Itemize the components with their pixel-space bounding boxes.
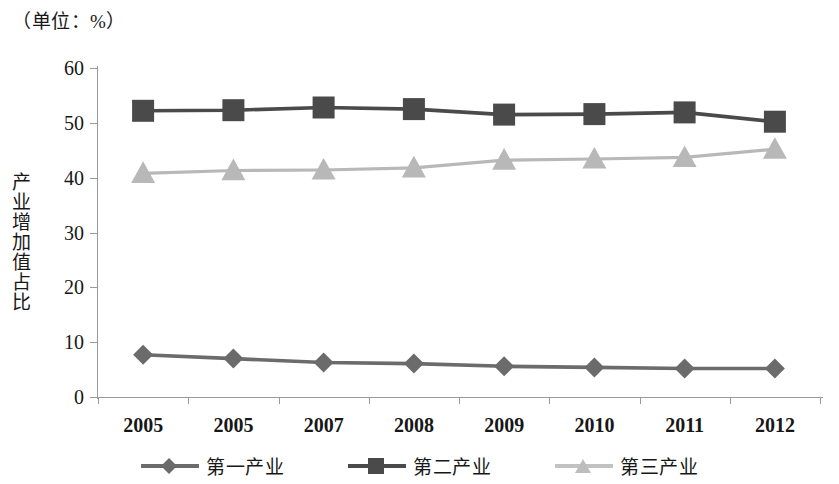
data-point-marker [222, 99, 244, 121]
data-point-marker [764, 111, 786, 133]
data-point-marker [313, 97, 335, 119]
chart-legend: 第一产业 第二产业 第三产业 [0, 452, 839, 479]
legend-triangle-icon [555, 457, 613, 475]
data-point-marker [132, 100, 154, 122]
series-2 [132, 97, 786, 133]
data-point-marker [133, 345, 153, 365]
data-point-marker [674, 101, 696, 123]
data-point-marker [314, 352, 334, 372]
legend-label-second-industry: 第二产业 [413, 452, 491, 479]
data-point-marker [404, 354, 424, 374]
data-point-marker [675, 358, 695, 378]
chart-series-layer [0, 0, 839, 484]
data-point-marker [763, 137, 787, 159]
legend-square-icon [348, 457, 406, 475]
data-point-marker [583, 103, 605, 125]
data-point-marker [765, 358, 785, 378]
data-point-marker [494, 356, 514, 376]
data-point-marker [493, 104, 515, 126]
legend-item-third-industry[interactable]: 第三产业 [555, 452, 698, 479]
series-3 [131, 137, 787, 183]
chart-container: （单位：%） 产业增加值占比 6050403020100 20052005200… [0, 0, 839, 484]
legend-item-first-industry[interactable]: 第一产业 [141, 452, 284, 479]
legend-diamond-icon [141, 457, 199, 475]
data-point-marker [223, 349, 243, 369]
series-1 [133, 345, 785, 379]
legend-item-second-industry[interactable]: 第二产业 [348, 452, 491, 479]
data-point-marker [584, 357, 604, 377]
legend-label-first-industry: 第一产业 [206, 452, 284, 479]
legend-label-third-industry: 第三产业 [620, 452, 698, 479]
data-point-marker [403, 98, 425, 120]
